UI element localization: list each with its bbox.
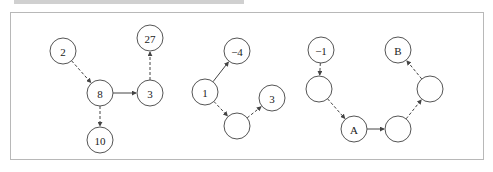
graph-diagram: 2832710−413−1BA (0, 0, 493, 172)
graph-node (417, 76, 443, 102)
graph-node: A (341, 116, 367, 142)
edge-arrow-dashed (247, 107, 261, 118)
graph-node: 3 (137, 80, 163, 106)
node-label: 2 (60, 46, 66, 58)
node-label: A (350, 124, 358, 136)
node-circle (385, 116, 411, 142)
graph-node: −1 (308, 37, 334, 63)
edge-arrow-dashed (72, 61, 91, 83)
node-label: B (394, 45, 401, 57)
node-label: 27 (145, 33, 157, 45)
edge-arrow-dashed (320, 63, 321, 75)
graph-node: 27 (137, 25, 163, 51)
edge-arrow-dashed (214, 101, 227, 115)
graph-node: 3 (259, 85, 285, 111)
graph-node: 8 (87, 80, 113, 106)
edge-arrow-dashed (406, 100, 421, 119)
node-circle (417, 76, 443, 102)
node-label: 10 (95, 135, 107, 147)
graph-node: 2 (50, 38, 76, 64)
node-label: 8 (97, 88, 103, 100)
node-label: 3 (147, 88, 153, 100)
edge-arrow-solid (213, 62, 228, 82)
nodes-layer: 2832710−413−1BA (50, 25, 443, 153)
graph-node: 1 (192, 79, 218, 105)
graph-node (385, 116, 411, 142)
graph-node (306, 76, 332, 102)
node-circle (306, 76, 332, 102)
edge-arrow-dashed (328, 99, 345, 119)
edge-arrow-dashed (407, 61, 422, 79)
graph-node (224, 113, 250, 139)
graph-node: B (385, 37, 411, 63)
node-label: 1 (202, 87, 208, 99)
node-circle (224, 113, 250, 139)
node-label: −4 (231, 46, 243, 58)
graph-node: −4 (224, 38, 250, 64)
graph-node: 10 (87, 127, 113, 153)
node-label: 3 (269, 93, 275, 105)
node-label: −1 (315, 45, 327, 57)
